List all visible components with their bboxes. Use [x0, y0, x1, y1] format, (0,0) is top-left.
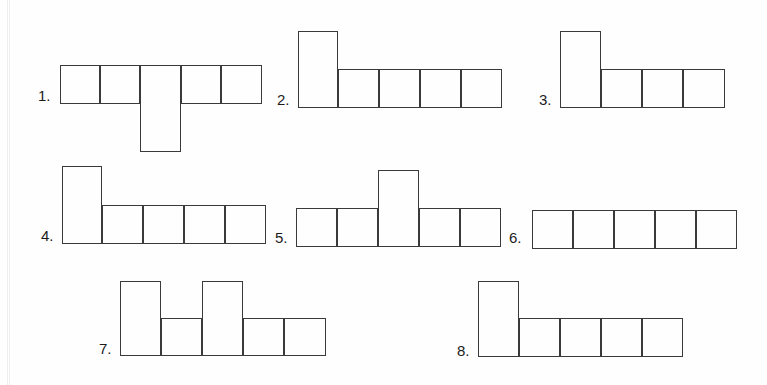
grid-cell	[696, 210, 737, 249]
figure-label-5: 5.	[275, 230, 288, 245]
figure-label-6: 6.	[509, 230, 522, 245]
scan-artifact-line	[9, 0, 10, 385]
grid-cell	[221, 65, 262, 104]
scan-artifact-line	[7, 0, 8, 385]
grid-cell	[642, 318, 683, 357]
grid-cell	[478, 281, 519, 357]
grid-cell	[532, 210, 573, 249]
grid-cell	[420, 69, 461, 108]
grid-cell	[337, 208, 378, 247]
grid-cell	[601, 69, 642, 108]
grid-cell	[184, 205, 225, 244]
grid-cell	[161, 318, 202, 356]
grid-cell	[419, 208, 460, 247]
figure-label-8: 8.	[457, 343, 470, 358]
grid-cell	[683, 69, 725, 108]
grid-cell	[100, 65, 140, 104]
grid-cell	[284, 318, 326, 356]
grid-cell	[143, 205, 184, 244]
grid-cell	[642, 69, 683, 108]
grid-cell	[560, 318, 601, 357]
grid-cell	[202, 281, 243, 356]
grid-cell	[379, 69, 420, 108]
grid-cell	[296, 208, 337, 247]
grid-cell	[298, 31, 338, 108]
worksheet-canvas: 1.2.3.4.5.6.7.8.	[0, 0, 767, 385]
grid-cell	[655, 210, 696, 249]
figure-label-7: 7.	[99, 341, 112, 356]
grid-cell	[573, 210, 614, 249]
grid-cell	[338, 69, 379, 108]
figure-label-4: 4.	[41, 228, 54, 243]
figure-label-1: 1.	[38, 88, 51, 103]
figure-label-2: 2.	[277, 92, 290, 107]
grid-cell	[461, 69, 502, 108]
grid-cell	[120, 281, 161, 356]
figure-label-3: 3.	[539, 92, 552, 107]
grid-cell	[560, 31, 601, 108]
grid-cell	[614, 210, 655, 249]
grid-cell	[601, 318, 642, 357]
grid-cell	[62, 166, 102, 244]
grid-cell	[378, 170, 419, 247]
grid-cell	[102, 205, 143, 244]
grid-cell	[181, 65, 221, 104]
grid-cell	[225, 205, 266, 244]
grid-cell	[460, 208, 501, 247]
grid-cell	[243, 318, 284, 356]
grid-cell	[519, 318, 560, 357]
grid-cell	[140, 65, 181, 152]
grid-cell	[60, 65, 100, 104]
